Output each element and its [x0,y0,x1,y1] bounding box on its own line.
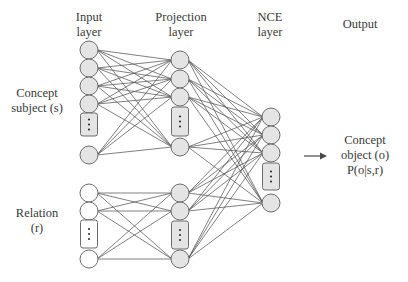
vertical-ellipsis-icon [88,123,90,125]
output-label-line1: Concept [330,133,400,148]
edge [97,68,172,79]
projection-layer-title-line1: Projection [150,10,212,25]
input-relation-node [80,184,98,202]
relation-label-line1: Relation [8,206,66,221]
projection-subject-node [171,88,189,106]
input-subject-node [80,146,98,164]
vertical-ellipsis-icon [179,229,181,231]
input-subject-node [80,95,98,113]
output-arrow-icon [304,153,327,160]
input-relation-node [80,202,98,220]
edge [97,147,172,155]
input-layer-title-line2: layer [66,25,112,40]
edge [188,203,263,259]
projection-subject-node [171,138,189,156]
projection-relation-node [171,250,189,268]
edge [188,60,263,117]
vertical-ellipsis-icon [88,118,90,120]
projection-relation-node [171,202,189,220]
projection-subject-node [171,70,189,88]
vertical-ellipsis-icon [88,238,90,240]
input-layer-title-line1: Input [66,10,112,25]
vertical-ellipsis-icon [179,120,181,122]
edge [188,117,263,147]
edge [188,97,263,117]
input-relation-ellipsis-box [81,220,98,248]
vertical-ellipsis-icon [88,228,90,230]
subject-label-line1: Concept [2,86,72,101]
projection-relation-node [171,184,189,202]
input-subject-node [80,41,98,59]
edge [188,153,263,259]
relation-label-line2: (r) [8,221,66,236]
output-label-line3: P(o|s,r) [330,163,400,178]
vertical-ellipsis-icon [270,180,272,182]
vertical-ellipsis-icon [179,115,181,117]
edge [97,50,172,60]
input-subject-node [80,59,98,77]
nce-node [262,108,280,126]
output-label: Concept object (o) P(o|s,r) [330,133,400,178]
edge [188,97,263,153]
projection-relation-ellipsis-box [172,221,189,249]
subject-input-label: Concept subject (s) [2,86,72,116]
output-label-line2: object (o) [330,148,400,163]
edge [188,135,263,211]
vertical-ellipsis-icon [270,170,272,172]
vertical-ellipsis-icon [179,239,181,241]
output-title: Output [330,17,390,32]
projection-subject-node [171,51,189,69]
nce-node [262,194,280,212]
edge [188,117,263,259]
vertical-ellipsis-icon [270,175,272,177]
input-subject-ellipsis-box [81,113,98,136]
edge [188,147,263,153]
relation-input-label: Relation (r) [8,206,66,236]
output-title-text: Output [330,17,390,32]
edge [97,97,172,155]
network-nodes [80,41,280,268]
nce-ellipsis-box [263,163,280,190]
input-layer-title: Input layer [66,10,112,40]
nce-node [262,126,280,144]
edge [188,203,263,211]
input-subject-node [80,77,98,95]
input-relation-node [80,250,98,268]
nce-layer-title-line1: NCE [248,10,292,25]
projection-layer-title: Projection layer [150,10,212,40]
subject-label-line2: subject (s) [2,101,72,116]
nce-layer-title-line2: layer [248,25,292,40]
vertical-ellipsis-icon [179,125,181,127]
edge [97,79,172,155]
edge [188,97,263,135]
projection-layer-title-line2: layer [150,25,212,40]
vertical-ellipsis-icon [179,234,181,236]
projection-subject-ellipsis-box [172,107,189,136]
nce-node [262,144,280,162]
edge [188,135,263,147]
vertical-ellipsis-icon [88,128,90,130]
vertical-ellipsis-icon [88,233,90,235]
nce-layer-title: NCE layer [248,10,292,40]
